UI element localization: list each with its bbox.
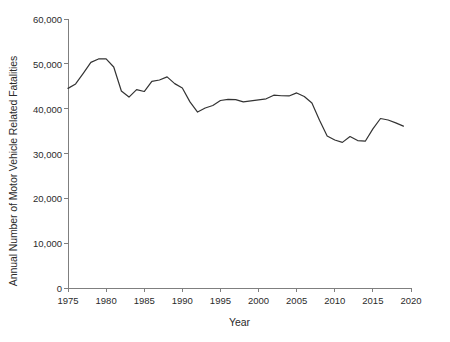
axis-lines — [68, 19, 411, 288]
y-axis-ticks — [64, 19, 68, 288]
chart-container: Annual Number of Motor Vehicle Related F… — [0, 0, 450, 342]
fatalities-series-line — [68, 59, 403, 142]
x-axis-ticks — [68, 288, 411, 292]
plot-area — [0, 0, 450, 342]
